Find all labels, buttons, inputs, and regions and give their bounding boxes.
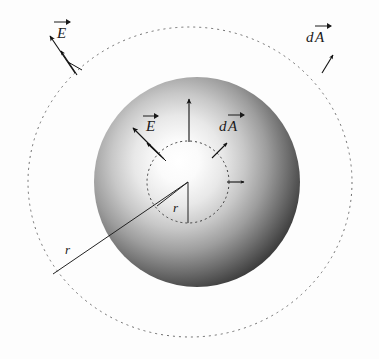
outer-E-label-group: E: [54, 19, 71, 41]
inner-dA-A-label: A: [227, 118, 238, 134]
outer-dA-d-label: d: [306, 29, 314, 45]
outer-dA-vector-hat-arrow: [327, 23, 332, 29]
outer-E-vector-hat-arrow: [66, 19, 71, 25]
inner-E-label: E: [145, 118, 155, 134]
outer-dA-A-label: A: [314, 29, 325, 45]
outer-dA-label-group: d A: [306, 23, 332, 45]
inner-dA-d-label: d: [219, 118, 227, 134]
charged-sphere: [94, 77, 300, 287]
outer-electric-field-vector: [50, 36, 75, 73]
outer-radius-label: r: [65, 242, 71, 257]
outer-right-area-element-vector: [322, 55, 333, 73]
figure-canvas: E d A E d A r r: [0, 0, 379, 359]
outer-E-label: E: [56, 25, 66, 41]
gauss-law-figure: E d A E d A r r: [0, 0, 379, 359]
